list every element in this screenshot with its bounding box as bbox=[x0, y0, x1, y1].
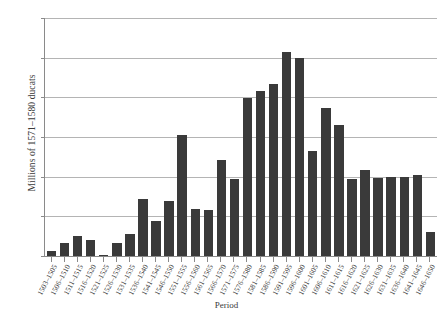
bar bbox=[386, 177, 395, 256]
bar bbox=[191, 209, 200, 256]
bar bbox=[204, 210, 213, 256]
bar-slot bbox=[71, 18, 84, 256]
bar bbox=[125, 234, 134, 256]
bar-slot bbox=[385, 18, 398, 256]
bar bbox=[177, 135, 186, 256]
bar bbox=[334, 125, 343, 256]
bar bbox=[230, 179, 239, 256]
bar-slot bbox=[254, 18, 267, 256]
bar-slot bbox=[84, 18, 97, 256]
y-axis-title: Millions of 1571–1580 ducats bbox=[27, 28, 37, 238]
bar-slot bbox=[123, 18, 136, 256]
bar-slot bbox=[398, 18, 411, 256]
bar-slot bbox=[58, 18, 71, 256]
bar bbox=[86, 240, 95, 256]
bar bbox=[413, 175, 422, 256]
bar-slot bbox=[345, 18, 358, 256]
bar-slot bbox=[411, 18, 424, 256]
bar bbox=[400, 177, 409, 256]
bar bbox=[360, 170, 369, 256]
x-axis-title: Period bbox=[0, 300, 447, 310]
bar-slot bbox=[306, 18, 319, 256]
bar-slot bbox=[150, 18, 163, 256]
bar-slot bbox=[359, 18, 372, 256]
bar-chart-figure: Millions of 1571–1580 ducats 024681012 1… bbox=[0, 0, 447, 321]
bar-slot bbox=[319, 18, 332, 256]
bar bbox=[60, 243, 69, 256]
bar bbox=[73, 236, 82, 256]
bar-slot bbox=[215, 18, 228, 256]
bar bbox=[373, 178, 382, 256]
bar bbox=[256, 91, 265, 256]
bar-slot bbox=[176, 18, 189, 256]
bar bbox=[426, 232, 435, 256]
bar-slot bbox=[241, 18, 254, 256]
bar-slot bbox=[189, 18, 202, 256]
bar-slot bbox=[293, 18, 306, 256]
bar bbox=[99, 255, 108, 256]
bar bbox=[321, 108, 330, 256]
bar bbox=[295, 58, 304, 256]
bar bbox=[269, 84, 278, 256]
bar-slot bbox=[97, 18, 110, 256]
bar-slot bbox=[280, 18, 293, 256]
bar-slot bbox=[332, 18, 345, 256]
plot-area: 024681012 bbox=[44, 18, 437, 257]
bar-slot bbox=[163, 18, 176, 256]
bar bbox=[243, 98, 252, 256]
bar-slot bbox=[110, 18, 123, 256]
bar-slot bbox=[228, 18, 241, 256]
x-axis-title-text: Period bbox=[215, 300, 239, 310]
bar-slot bbox=[202, 18, 215, 256]
bar bbox=[47, 251, 56, 256]
bar-slot bbox=[424, 18, 437, 256]
bar-slot bbox=[136, 18, 149, 256]
bar bbox=[347, 179, 356, 256]
bar bbox=[217, 160, 226, 256]
bar-slot bbox=[45, 18, 58, 256]
bar bbox=[164, 201, 173, 256]
bar bbox=[138, 199, 147, 256]
bar bbox=[308, 151, 317, 256]
bar bbox=[151, 221, 160, 256]
bar-series bbox=[45, 18, 437, 256]
bar bbox=[282, 52, 291, 256]
bar bbox=[112, 243, 121, 256]
bar-slot bbox=[372, 18, 385, 256]
bar-slot bbox=[267, 18, 280, 256]
